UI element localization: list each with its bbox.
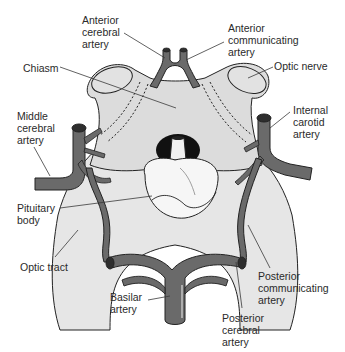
label-anterior-communicating-artery: Anterior communicating artery [228, 22, 299, 58]
label-pituitary-body: Pituitary body [17, 202, 55, 226]
label-posterior-cerebral-artery: Posterior cerebral artery [222, 312, 264, 348]
label-internal-carotid-artery: Internal carotid artery [293, 104, 328, 140]
label-posterior-communicating-artery: Posterior communicating artery [258, 270, 329, 306]
label-middle-cerebral-artery: Middle cerebral artery [17, 110, 55, 146]
label-optic-nerve: Optic nerve [274, 60, 328, 72]
label-basilar-artery: Basilar artery [110, 291, 142, 315]
label-optic-tract: Optic tract [20, 261, 68, 273]
label-chiasm: Chiasm [23, 62, 59, 74]
label-anterior-cerebral-artery: Anterior cerebral artery [82, 14, 120, 50]
